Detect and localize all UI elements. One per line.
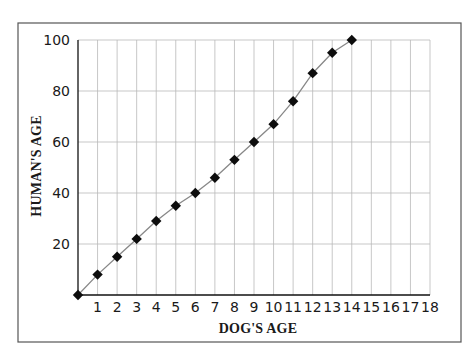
x-tick-label: 11 (284, 299, 302, 315)
x-tick-label: 17 (402, 299, 420, 315)
x-tick-label: 4 (152, 299, 161, 315)
x-tick-label: 3 (132, 299, 141, 315)
y-tick-label: 20 (52, 236, 70, 252)
x-tick-label: 6 (191, 299, 200, 315)
y-tick-label: 40 (52, 185, 70, 201)
x-tick-label: 15 (362, 299, 380, 315)
x-tick-label: 7 (210, 299, 219, 315)
x-tick-label: 14 (343, 299, 361, 315)
x-tick-label: 1 (93, 299, 102, 315)
chart-frame (18, 23, 461, 342)
x-tick-label: 18 (421, 299, 439, 315)
y-tick-label: 80 (52, 83, 70, 99)
x-tick-label: 10 (265, 299, 283, 315)
x-tick-label: 16 (382, 299, 400, 315)
x-tick-label: 5 (171, 299, 180, 315)
x-tick-label: 8 (230, 299, 239, 315)
x-tick-label: 2 (113, 299, 122, 315)
x-tick-label: 9 (250, 299, 259, 315)
y-axis-title: HUMAN'S AGE (29, 115, 44, 216)
y-tick-label: 100 (43, 32, 70, 48)
x-tick-label: 12 (304, 299, 322, 315)
y-tick-label: 60 (52, 134, 70, 150)
x-axis-title: DOG'S AGE (219, 321, 297, 336)
x-tick-label: 13 (323, 299, 341, 315)
chart: 20406080100 123456789101112131415161718 … (0, 0, 471, 361)
